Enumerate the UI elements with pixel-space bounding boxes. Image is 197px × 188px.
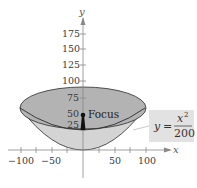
equation-exponent: 2 xyxy=(184,111,188,119)
y-tick-label: 25 xyxy=(67,119,79,130)
leader-line xyxy=(133,126,149,130)
equation-equals: = xyxy=(163,120,172,133)
equation-numerator: x xyxy=(177,112,184,125)
y-axis-label: y xyxy=(78,6,85,17)
focus-label: Focus xyxy=(88,108,119,120)
x-tick-label: −50 xyxy=(41,155,61,166)
x-axis-arrow xyxy=(164,148,172,153)
x-axis-label: x xyxy=(173,144,179,155)
focus-point xyxy=(81,113,86,118)
y-tick-label: 175 xyxy=(62,28,80,39)
y-tick-label: 100 xyxy=(62,75,80,86)
y-tick-label: 75 xyxy=(67,92,79,103)
x-tick-label: 100 xyxy=(138,155,156,166)
x-tick-label: 50 xyxy=(109,155,121,166)
y-tick-label: 150 xyxy=(62,43,80,54)
y-tick-label: 50 xyxy=(67,108,79,119)
x-tick-label: −100 xyxy=(8,155,34,166)
equation-denominator: 200 xyxy=(174,127,195,140)
equation-lhs: y xyxy=(153,120,161,133)
y-axis-arrow xyxy=(81,17,86,25)
paraboloid-diagram: y x −100 −50 50 100 175 150 125 100 75 5… xyxy=(0,0,197,188)
y-tick-label: 125 xyxy=(62,59,80,70)
